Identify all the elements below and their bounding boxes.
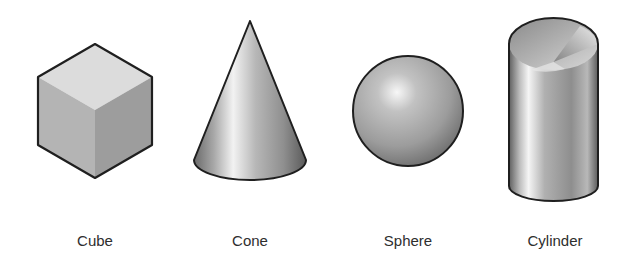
sphere-label: Sphere [384,232,432,249]
cone-shape [194,21,306,180]
geometric-shapes-diagram [0,0,630,266]
cube-label: Cube [77,232,113,249]
cone-label: Cone [232,232,268,249]
cube-shape [38,44,152,178]
sphere-shape [353,56,463,166]
cylinder-label: Cylinder [527,232,582,249]
cone-body [194,21,306,180]
cylinder-shape [509,18,598,201]
sphere-body [353,56,463,166]
